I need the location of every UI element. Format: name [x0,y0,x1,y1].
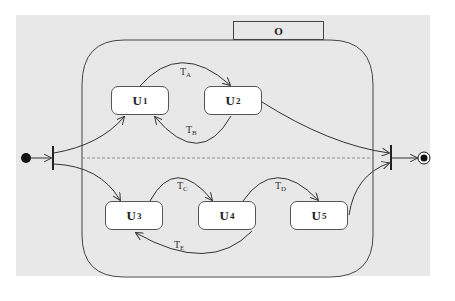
tb-sub: B [192,129,197,137]
state-u5-sub: 5 [322,211,327,221]
composite-state-border [82,40,373,277]
state-u2-label: U [226,93,235,109]
te-sub: E [180,244,184,252]
state-u3-label: U [127,208,136,224]
composite-state-name-tab: O [233,21,324,40]
td-sub: D [281,185,286,193]
transition-label-ta: TA [180,66,191,79]
state-u1-label: U [133,93,142,109]
state-u2-sub: 2 [236,96,241,106]
state-u5: U5 [290,201,348,230]
state-u3-sub: 3 [137,211,142,221]
state-u4: U4 [198,201,256,230]
ta-sub: A [186,71,191,79]
composite-state-name: O [274,25,283,37]
transition-label-tb: TB [186,124,197,137]
transition-label-td: TD [275,180,286,193]
state-u3: U3 [105,201,163,230]
initial-state-icon [21,153,31,163]
state-diagram: O U1 U2 U3 U4 U5 TA TB TC TD TE [0,0,455,301]
state-u4-sub: 4 [230,211,235,221]
transition-label-tc: TC [177,180,188,193]
tc-sub: C [183,185,188,193]
state-u4-label: U [220,208,229,224]
transition-label-te: TE [174,239,184,252]
diagram-lines [0,0,455,301]
state-u5-label: U [312,208,321,224]
state-u1: U1 [111,86,169,115]
state-u2: U2 [204,86,262,115]
state-u1-sub: 1 [143,96,148,106]
